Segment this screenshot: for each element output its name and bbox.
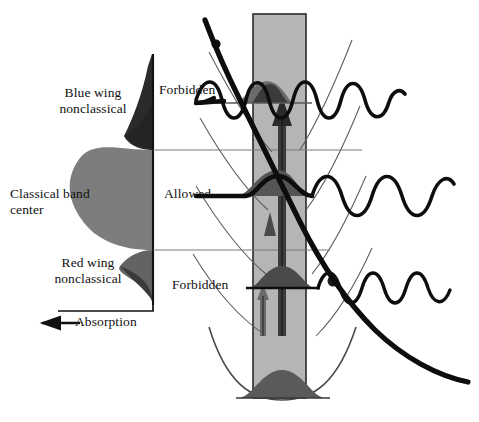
figure-root: Blue wing nonclassical Classical band ce… bbox=[0, 0, 479, 422]
middle-level-wavefunction bbox=[312, 177, 454, 216]
label-forbidden-bottom: Forbidden bbox=[172, 277, 228, 293]
label-blue-wing: Blue wing nonclassical bbox=[38, 85, 148, 116]
forbidden-upper-level-stub bbox=[196, 101, 224, 103]
middle-level bbox=[196, 170, 454, 216]
label-red-wing: Red wing nonclassical bbox=[32, 255, 144, 286]
excited-state-node-upper bbox=[211, 39, 220, 48]
ground-state-wavefunction bbox=[236, 370, 330, 398]
label-absorption: Absorption bbox=[75, 314, 137, 330]
label-allowed: Allowed bbox=[164, 186, 211, 202]
label-classical-center: Classical band center bbox=[10, 186, 140, 217]
label-forbidden-top: Forbidden bbox=[159, 82, 215, 98]
